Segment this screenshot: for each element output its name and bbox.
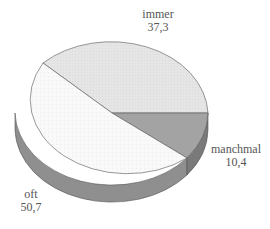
label-oft-value: 50,7 [10, 201, 52, 214]
label-manchmal-value: 10,4 [205, 156, 267, 169]
label-manchmal: manchmal 10,4 [205, 143, 267, 169]
label-immer-value: 37,3 [130, 21, 186, 34]
label-immer: immer 37,3 [130, 8, 186, 34]
label-oft: oft 50,7 [10, 188, 52, 214]
